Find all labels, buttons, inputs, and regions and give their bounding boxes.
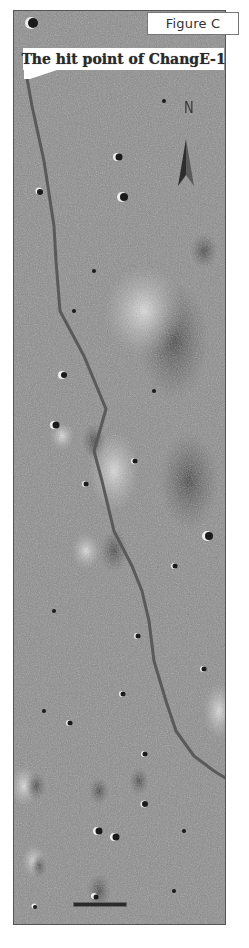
scale-bar: [73, 902, 127, 907]
north-label: N: [184, 99, 194, 117]
lunar-terrain-svg: [14, 11, 226, 925]
figure-label: Figure C: [147, 12, 239, 35]
lunar-map-image: [13, 10, 226, 925]
callout-pointer: [24, 69, 60, 79]
hit-point-callout: The hit point of ChangE-1: [23, 48, 224, 70]
